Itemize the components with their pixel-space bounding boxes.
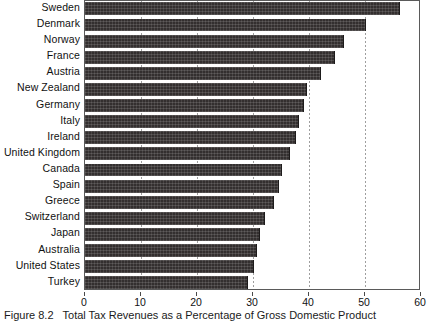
- bar-spain: [85, 180, 279, 193]
- category-label-turkey: Turkey: [48, 275, 80, 288]
- category-label-germany: Germany: [36, 98, 80, 111]
- category-label-united-states: United States: [16, 259, 80, 272]
- category-label-norway: Norway: [44, 33, 80, 46]
- bar-turkey: [85, 276, 248, 289]
- bar-row: [85, 99, 419, 112]
- bar-switzerland: [85, 212, 265, 225]
- bar-united-kingdom: [85, 147, 290, 160]
- bar-australia: [85, 244, 257, 257]
- category-label-greece: Greece: [45, 194, 80, 207]
- category-label-australia: Australia: [38, 243, 80, 256]
- bar-row: [85, 180, 419, 193]
- category-label-denmark: Denmark: [37, 17, 80, 30]
- category-label-ireland: Ireland: [47, 130, 80, 143]
- figure-caption: Figure 8.2Total Tax Revenues as a Percen…: [4, 309, 424, 321]
- category-label-united-kingdom: United Kingdom: [4, 146, 80, 159]
- bar-austria: [85, 67, 321, 80]
- x-tick-label-60: 60: [414, 296, 426, 308]
- bar-row: [85, 35, 419, 48]
- bar-france: [85, 51, 335, 64]
- bar-row: [85, 19, 419, 32]
- category-label-spain: Spain: [53, 178, 80, 191]
- figure-caption-text: Total Tax Revenues as a Percentage of Gr…: [63, 309, 376, 321]
- bar-row: [85, 196, 419, 209]
- bar-row: [85, 147, 419, 160]
- bar-row: [85, 260, 419, 273]
- bar-row: [85, 51, 419, 64]
- bar-row: [85, 276, 419, 289]
- bar-row: [85, 131, 419, 144]
- bar-row: [85, 2, 419, 15]
- bar-denmark: [85, 19, 366, 32]
- category-label-canada: Canada: [43, 162, 80, 175]
- x-tick-label-40: 40: [302, 296, 314, 308]
- bar-row: [85, 164, 419, 177]
- bar-greece: [85, 196, 274, 209]
- bar-rows: [85, 1, 419, 289]
- category-label-japan: Japan: [51, 226, 80, 239]
- bar-row: [85, 83, 419, 96]
- bar-row: [85, 212, 419, 225]
- bar-sweden: [85, 2, 400, 15]
- bar-japan: [85, 228, 260, 241]
- category-label-austria: Austria: [47, 65, 80, 78]
- x-tick-label-50: 50: [358, 296, 370, 308]
- bar-germany: [85, 99, 304, 112]
- bar-row: [85, 244, 419, 257]
- bar-italy: [85, 115, 299, 128]
- category-label-italy: Italy: [60, 114, 80, 127]
- bar-ireland: [85, 131, 296, 144]
- x-tick-label-0: 0: [81, 296, 87, 308]
- bar-canada: [85, 164, 282, 177]
- bar-new-zealand: [85, 83, 307, 96]
- category-label-new-zealand: New Zealand: [17, 81, 80, 94]
- bar-norway: [85, 35, 344, 48]
- bar-united-states: [85, 260, 254, 273]
- bar-row: [85, 115, 419, 128]
- x-tick-label-20: 20: [190, 296, 202, 308]
- bar-row: [85, 67, 419, 80]
- category-label-france: France: [47, 49, 80, 62]
- chart-plot-area: [84, 0, 420, 290]
- x-tick-label-30: 30: [246, 296, 258, 308]
- x-tick-label-10: 10: [134, 296, 146, 308]
- category-label-sweden: Sweden: [41, 1, 80, 14]
- category-label-switzerland: Switzerland: [25, 210, 80, 223]
- figure-container: SwedenDenmarkNorwayFranceAustriaNew Zeal…: [0, 0, 427, 327]
- figure-number: Figure 8.2: [4, 309, 54, 321]
- bar-row: [85, 228, 419, 241]
